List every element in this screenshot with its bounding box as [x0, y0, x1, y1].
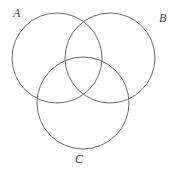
set-circle-b: [65, 13, 155, 103]
set-label-c: C: [75, 153, 83, 165]
set-circle-a: [12, 13, 102, 103]
venn-diagram-canvas: [0, 0, 173, 171]
venn-diagram-figure: A B C: [0, 0, 173, 171]
set-label-a: A: [13, 7, 20, 19]
set-label-b: B: [159, 12, 166, 24]
